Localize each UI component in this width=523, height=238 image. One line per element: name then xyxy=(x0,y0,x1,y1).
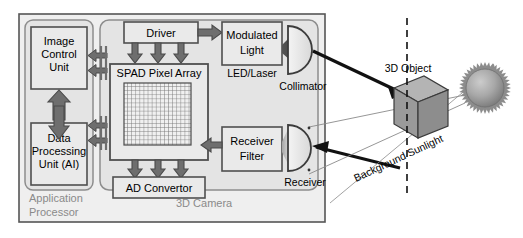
block-receiver-filter[interactable] xyxy=(222,127,282,171)
scene-3d-object-label: 3D Object xyxy=(385,62,432,74)
block-image-control-unit-label-1: Image xyxy=(44,35,75,47)
arrows-spad-to-adc xyxy=(128,160,188,178)
optic-collimator-label: Collimator xyxy=(279,80,327,92)
block-data-processing-unit-label-3: Unit (AI) xyxy=(39,158,79,170)
block-modulated-light-caption: LED/Laser xyxy=(227,67,277,79)
optic-receiver-label: Receiver xyxy=(284,176,326,188)
arrows-driver-to-spad xyxy=(128,43,188,63)
block-modulated-light-label-2: Light xyxy=(240,44,264,56)
block-receiver-filter-label-1: Receiver xyxy=(230,135,274,147)
ray-emitted-to-object xyxy=(313,51,404,99)
block-driver-label: Driver xyxy=(146,27,176,39)
scene-3d-object-cube xyxy=(394,76,448,138)
group-application-processor-label-2: Processor xyxy=(29,206,79,218)
block-modulated-light-label-1: Modulated xyxy=(226,29,277,41)
scene-sun xyxy=(459,62,511,114)
block-image-control-unit-label-2: Control xyxy=(41,48,76,60)
block-data-processing-unit-label-2: Processing xyxy=(32,145,86,157)
group-3d-camera-label: 3D Camera xyxy=(176,197,233,209)
block-receiver-filter-label-2: Filter xyxy=(240,150,265,162)
block-image-control-unit-label-3: Unit xyxy=(49,61,69,73)
sun-disc-icon xyxy=(466,69,504,107)
block-ad-convertor-label: AD Convertor xyxy=(126,182,193,194)
spad-pixel-grid xyxy=(124,83,191,145)
diagram-canvas: Application Processor Application Proces… xyxy=(0,0,523,238)
group-application-processor-label: Application xyxy=(29,192,83,204)
block-spad-pixel-array-label: SPAD Pixel Array xyxy=(117,67,202,79)
